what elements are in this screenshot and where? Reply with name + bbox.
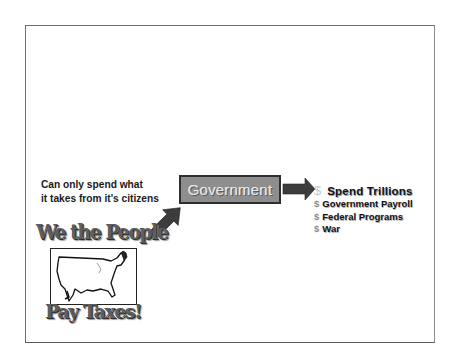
- us-map-icon: [51, 249, 135, 303]
- caption-text: Can only spend what it takes from it's c…: [41, 178, 159, 206]
- spending-item: $ Government Payroll: [314, 198, 413, 211]
- spending-item-label: Federal Programs: [322, 211, 403, 222]
- government-box: Government: [179, 175, 281, 204]
- dollar-icon: $: [314, 198, 319, 209]
- caption-line-1: Can only spend what: [41, 178, 159, 192]
- spending-item-label: War: [322, 223, 340, 234]
- us-map-box: [50, 248, 137, 305]
- dollar-icon: $: [314, 183, 321, 198]
- spending-heading: $ Spend Trillions: [314, 183, 413, 198]
- spending-heading-label: Spend Trillions: [327, 185, 412, 197]
- right-arrow-icon: [283, 178, 316, 200]
- we-the-people-clipart: We the People Pay Taxes!: [34, 221, 159, 326]
- spending-item: $ Federal Programs: [314, 211, 413, 224]
- dollar-icon: $: [314, 211, 319, 222]
- caption-line-2: it takes from it's citizens: [41, 192, 159, 206]
- pay-taxes-text: Pay Taxes!: [45, 300, 141, 322]
- we-the-people-text: We the People: [36, 220, 167, 243]
- spending-list: $ Spend Trillions $ Government Payroll $…: [314, 183, 413, 236]
- dollar-icon: $: [314, 223, 319, 234]
- spending-item: $ War: [314, 223, 413, 236]
- spending-item-label: Government Payroll: [322, 198, 412, 209]
- government-label: Government: [188, 181, 273, 198]
